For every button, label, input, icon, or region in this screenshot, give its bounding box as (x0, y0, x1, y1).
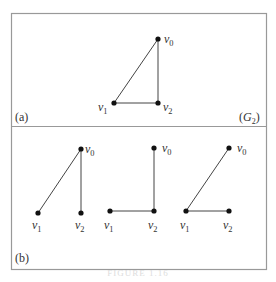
vertex-v1 (111, 100, 116, 105)
vertex-v1 (183, 208, 188, 213)
vertex-v2 (151, 208, 156, 213)
vertex-v1 (107, 208, 112, 213)
edge-v0-v1 (38, 149, 81, 213)
graph-b-1: v0v1v2 (32, 142, 95, 234)
edge-v0-v1 (186, 148, 229, 211)
vertex-label-v2: v2 (223, 218, 233, 234)
vertex-label-v1: v1 (32, 218, 42, 234)
vertex-v1 (35, 210, 40, 215)
vertex-v0 (78, 146, 83, 151)
vertex-label-v2: v2 (75, 218, 85, 234)
graph-b-2: v0v1v2 (104, 141, 172, 234)
vertex-v0 (151, 145, 156, 150)
figure-canvas: (a)(G2)v0v1v2(b)v0v1v2v0v1v2v0v1v2 (0, 0, 276, 282)
vertex-label-v0: v0 (162, 141, 172, 157)
vertex-label-v0: v0 (164, 32, 174, 48)
graph-b-3: v0v1v2 (180, 141, 247, 234)
vertex-v0 (226, 145, 231, 150)
vertex-v2 (78, 210, 83, 215)
vertex-label-v1: v1 (98, 100, 108, 116)
vertex-label-v1: v1 (180, 218, 190, 234)
figure-caption: FIGURE 1.16 (0, 268, 276, 278)
vertex-label-v1: v1 (104, 218, 114, 234)
graph-figure: (a)(G2)v0v1v2(b)v0v1v2v0v1v2v0v1v2 (0, 0, 276, 282)
vertex-label-v2: v2 (163, 100, 173, 116)
vertex-label-v0: v0 (237, 141, 247, 157)
panel-b: (b)v0v1v2v0v1v2v0v1v2 (15, 141, 247, 265)
panel-label-a: (a) (15, 110, 28, 124)
edge-v0-v1 (114, 39, 158, 103)
vertex-v0 (155, 36, 160, 41)
graph-name-label: (G2) (239, 110, 260, 126)
vertex-v2 (226, 208, 231, 213)
vertex-label-v0: v0 (85, 142, 95, 158)
graph-a-1: v0v1v2 (98, 32, 174, 116)
panel-a: (a)(G2)v0v1v2 (15, 32, 260, 126)
vertex-label-v2: v2 (148, 218, 158, 234)
panel-label-b: (b) (15, 251, 29, 265)
vertex-v2 (155, 100, 160, 105)
